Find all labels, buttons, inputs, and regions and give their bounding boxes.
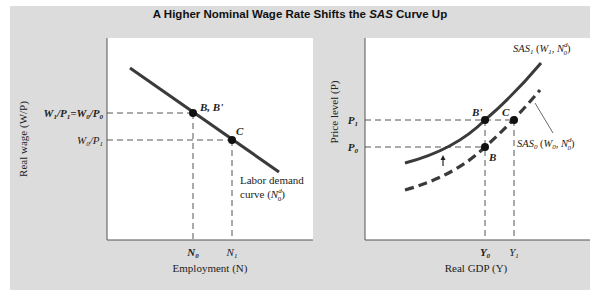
label-bprime: B' <box>471 106 482 118</box>
label-b-bprime: B, B' <box>199 101 223 113</box>
point-b <box>481 143 489 151</box>
point-c-right <box>510 116 518 124</box>
labor-market-chart: B, B' C W1/P1=W0/P0 W0/P1 N0 N1 Employme… <box>17 38 313 275</box>
left-x-axis-label: Employment (N) <box>173 262 248 275</box>
ytick-w0p1: W0/P1 <box>77 134 103 148</box>
right-y-axis-label: Price level (P) <box>328 80 341 143</box>
label-c-right: C <box>502 106 510 118</box>
label-b: B <box>488 151 496 163</box>
xtick-y0: Y0 <box>480 246 491 260</box>
xtick-n1: N1 <box>226 246 238 260</box>
xtick-y1: Y1 <box>509 246 519 260</box>
left-y-axis-label: Real wage (W/P) <box>17 101 30 177</box>
ytick-w1p1-w0p0: W1/P1=W0/P0 <box>44 107 104 121</box>
aggregate-supply-chart: B' B C P1 P0 Y0 Y1 Real GDP (Y) Price le… <box>328 38 590 275</box>
point-b-bprime <box>189 109 197 117</box>
right-x-axis-label: Real GDP (Y) <box>445 262 508 275</box>
xtick-n0: N0 <box>186 246 199 260</box>
ytick-p0: P0 <box>348 141 359 155</box>
label-c-left: C <box>236 125 244 137</box>
point-c-left <box>228 136 236 144</box>
ytick-p1: P1 <box>348 114 358 128</box>
labor-demand-label-line1: Labor demand <box>240 174 304 186</box>
diagram-canvas: B, B' C W1/P1=W0/P0 W0/P1 N0 N1 Employme… <box>0 0 600 296</box>
left-plot-area <box>107 38 313 240</box>
